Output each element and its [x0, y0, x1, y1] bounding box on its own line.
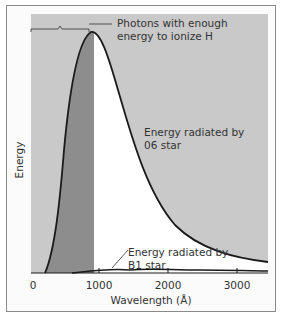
- b1-label-line1: Energy radiated by: [128, 246, 228, 258]
- x-axis-label: Wavelength (Å): [110, 294, 191, 306]
- tick-label-1000: 1000: [86, 279, 113, 291]
- tick-label-0: 0: [30, 279, 37, 291]
- chart: Photons with enough energy to ionize H E…: [0, 0, 282, 323]
- o6-label-line1: Energy radiated by: [144, 126, 244, 138]
- b1-label-line2: B1 star: [128, 259, 166, 271]
- tick-label-3000: 3000: [224, 279, 251, 291]
- ionize-label-line1: Photons with enough: [117, 17, 228, 29]
- ionize-label-line2: energy to ionize H: [117, 30, 213, 42]
- o6-label-line2: 06 star: [144, 139, 182, 151]
- tick-label-2000: 2000: [155, 279, 182, 291]
- y-axis-label: Energy: [13, 142, 25, 179]
